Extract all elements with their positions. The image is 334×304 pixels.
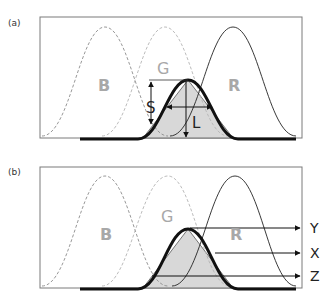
panel-b-label-b: B: [100, 225, 112, 244]
panel-b: (b) Y X Z B G R: [8, 167, 320, 289]
panel-b-label-g: G: [161, 207, 173, 226]
panel-b-output-x: X: [310, 245, 320, 261]
panel-a-label: (a): [8, 18, 21, 28]
panel-a-shaded-triangle: [143, 80, 233, 138]
panel-a-label-r: R: [228, 76, 240, 95]
panel-a-s-label: S: [146, 99, 156, 117]
panel-a: (a) S L B G R: [8, 17, 302, 139]
panel-b-output-y: Y: [309, 220, 319, 236]
panel-b-label-r: R: [230, 225, 242, 244]
panel-a-l-label: L: [192, 114, 201, 132]
panel-b-label: (b): [8, 167, 21, 177]
panel-b-shaded-triangle: [143, 229, 233, 288]
figure-canvas: (a) S L B G R (b): [0, 0, 334, 304]
panel-a-label-b: B: [98, 76, 110, 95]
panel-b-output-z: Z: [310, 268, 320, 284]
panel-a-label-g: G: [157, 59, 169, 78]
